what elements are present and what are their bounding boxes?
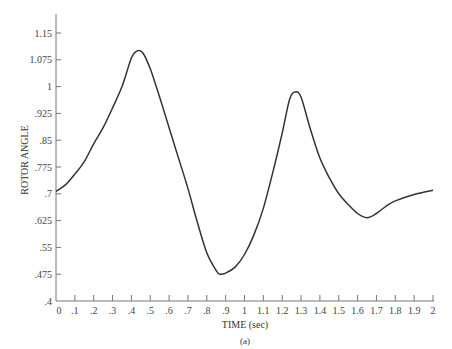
x-tick-label: .1 — [71, 305, 79, 316]
x-tick-label: 1.5 — [333, 305, 346, 316]
y-tick-label: .7 — [45, 188, 53, 199]
x-tick-label: 1.3 — [295, 305, 308, 316]
x-axis-title: TIME (sec) — [222, 319, 268, 331]
y-tick-label: .775 — [35, 162, 53, 173]
x-tick-label: 1.1 — [257, 305, 270, 316]
x-tick-label: .8 — [203, 305, 211, 316]
x-tick-label: 2 — [431, 305, 436, 316]
y-tick-label: 1.075 — [30, 54, 53, 65]
x-tick-label: 1 — [242, 305, 247, 316]
x-tick-label: 1.4 — [314, 305, 327, 316]
y-tick-label: .475 — [35, 269, 53, 280]
figure-caption: (a) — [240, 336, 250, 346]
x-tick-label: .4 — [128, 305, 136, 316]
x-tick-label: 1.2 — [276, 305, 289, 316]
y-axis-title: ROTOR ANGLE — [19, 125, 30, 195]
x-tick-label: .2 — [90, 305, 98, 316]
y-tick-label: 1.15 — [35, 28, 53, 39]
y-tick-label: .625 — [35, 215, 53, 226]
x-tick-label: .3 — [109, 305, 117, 316]
y-tick-label: .55 — [40, 242, 53, 253]
x-tick-label: 1.8 — [389, 305, 402, 316]
y-axis: .4.475.55.625.7.775.85.92511.0751.15 — [30, 14, 62, 307]
x-tick-label: 1.6 — [351, 305, 364, 316]
x-tick-label: 1.7 — [370, 305, 383, 316]
x-tick-label: 1.9 — [408, 305, 421, 316]
x-axis: 0.1.2.3.4.5.6.7.8.911.11.21.31.41.51.61.… — [56, 295, 436, 316]
x-tick-label: .5 — [147, 305, 155, 316]
y-tick-label: .925 — [35, 108, 53, 119]
y-tick-label: 1 — [47, 81, 52, 92]
y-tick-label: .85 — [40, 135, 53, 146]
x-tick-label: .9 — [222, 305, 230, 316]
x-tick-label: 0 — [57, 305, 62, 316]
x-ticks: 0.1.2.3.4.5.6.7.8.911.11.21.31.41.51.61.… — [57, 295, 436, 316]
y-tick-label: .4 — [45, 296, 53, 307]
x-tick-label: .6 — [165, 305, 173, 316]
x-tick-label: .7 — [184, 305, 192, 316]
rotor-angle-chart: .4.475.55.625.7.775.85.92511.0751.15 0.1… — [0, 0, 452, 349]
rotor-angle-curve — [56, 50, 433, 274]
